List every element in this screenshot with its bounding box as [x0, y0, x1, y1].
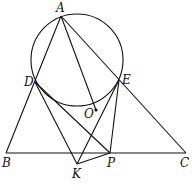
label-B: B [1, 156, 11, 170]
segment-DK [35, 82, 77, 164]
center-dot [94, 108, 97, 111]
label-D: D [23, 75, 34, 89]
label-E: E [121, 73, 131, 87]
label-O: O [84, 107, 94, 121]
segment-DP [35, 82, 110, 153]
label-P: P [106, 156, 116, 170]
label-A: A [55, 1, 65, 15]
segment-AO [61, 16, 96, 110]
geometry-diagram: A D E O B C K P [0, 0, 192, 190]
label-C: C [180, 156, 189, 170]
label-K: K [71, 167, 82, 181]
segment-EK [77, 80, 119, 164]
